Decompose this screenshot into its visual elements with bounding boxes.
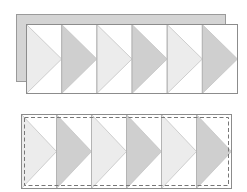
- top-panel-group: [17, 15, 238, 94]
- bottom-panel-group: [22, 115, 232, 189]
- flying-geese-diagram: [0, 0, 247, 192]
